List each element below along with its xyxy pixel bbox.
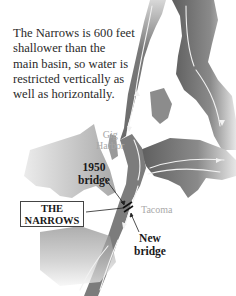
caption-line: main basin, so water is bbox=[13, 57, 163, 72]
callout-line: bridge bbox=[78, 174, 110, 187]
place-label-tacoma: Tacoma bbox=[141, 204, 173, 215]
caption-line: well as horizontally. bbox=[13, 87, 163, 102]
narrows-caption: The Narrows is 600 feet shallower than t… bbox=[13, 26, 163, 102]
callout-line: THE bbox=[21, 203, 83, 215]
callout-line: 1950 bbox=[78, 161, 110, 174]
callout-new-bridge: New bridge bbox=[134, 232, 166, 257]
place-label-line: Harbor bbox=[96, 140, 124, 151]
place-label-gig-harbor: Gig Harbor bbox=[96, 129, 124, 151]
caption-line: restricted vertically as bbox=[13, 72, 163, 87]
main-basin bbox=[172, 0, 236, 150]
callout-line: NARROWS bbox=[21, 215, 83, 227]
place-label-line: Gig bbox=[96, 129, 124, 140]
caption-line: shallower than the bbox=[13, 41, 163, 56]
callout-line: New bbox=[134, 232, 166, 245]
caption-line: The Narrows is 600 feet bbox=[13, 26, 163, 41]
callout-the-narrows: THE NARROWS bbox=[20, 201, 84, 227]
callout-1950-bridge: 1950 bridge bbox=[78, 161, 110, 186]
callout-line: bridge bbox=[134, 245, 166, 258]
